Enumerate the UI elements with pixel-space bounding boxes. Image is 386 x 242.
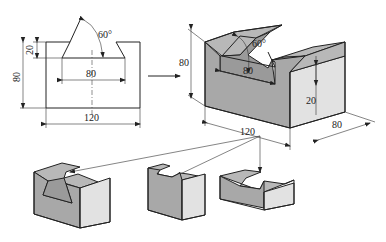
height-label: 80 [11, 72, 22, 82]
notch-depth-label: 20 [24, 45, 35, 55]
iso-length-label: 120 [240, 126, 255, 137]
isometric-view: 80 60° 80 20 120 80 [179, 25, 375, 150]
drawing-canvas: 60° 20 80 80 120 [0, 0, 386, 242]
variant-short-wide-block [220, 170, 294, 210]
leader-lines [70, 136, 260, 176]
angle-label: 60° [98, 29, 112, 40]
variant-tall-narrow-block [148, 164, 205, 220]
iso-height-label: 80 [179, 57, 189, 68]
engineering-drawing: 60° 20 80 80 120 [0, 0, 386, 242]
iso-angle-label: 60° [252, 38, 266, 49]
variant-deep-dovetail-block [34, 163, 110, 228]
front-view: 60° 20 80 80 120 [11, 18, 140, 128]
iso-depth-label: 80 [332, 119, 342, 130]
width-label: 120 [84, 112, 99, 123]
iso-notch-depth-label: 20 [306, 95, 316, 106]
iso-notch-width-label: 80 [243, 65, 253, 76]
notch-width-label: 80 [86, 68, 96, 79]
